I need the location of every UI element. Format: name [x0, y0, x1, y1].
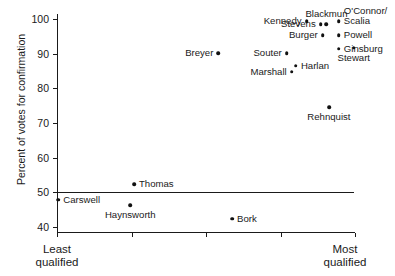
- y-axis-title: Percent of votes for confirmation: [16, 15, 27, 205]
- data-point-breyer: [217, 51, 221, 55]
- majority-threshold-line: [57, 192, 354, 193]
- point-label-bork: Bork: [237, 214, 257, 224]
- point-label-breyer: Breyer: [185, 48, 213, 58]
- data-point-powell: [337, 34, 341, 38]
- point-label-powell: Powell: [344, 30, 372, 40]
- y-axis-tick-label: 50: [21, 187, 49, 198]
- point-label-burger: Burger: [289, 30, 318, 40]
- data-point-rehnquist: [327, 106, 331, 110]
- x-axis-tick: [281, 233, 282, 237]
- data-point-burger: [321, 34, 325, 38]
- point-label-harlan: Harlan: [301, 61, 329, 71]
- point-label-thomas: Thomas: [139, 179, 174, 189]
- point-label-scalia: Scalia: [344, 16, 370, 26]
- point-label-rehnquist: Rehnquist: [307, 112, 350, 122]
- y-axis-tick-label: 90: [21, 49, 49, 60]
- point-label-stevens: Stevens: [281, 19, 316, 29]
- data-point-souter: [285, 51, 289, 55]
- x-axis-label-most-line2: qualified: [300, 256, 390, 269]
- y-axis-tick-label: 60: [21, 153, 49, 164]
- data-point-bork: [230, 217, 234, 221]
- x-axis-label-most-line1: Most: [300, 243, 390, 256]
- y-axis-tick-label: 40: [21, 222, 49, 233]
- data-point-stevens: [319, 22, 323, 26]
- x-axis-tick: [355, 233, 356, 237]
- y-axis-tick-label: 100: [21, 14, 49, 25]
- x-axis-label-most-qualified: Most qualified: [300, 243, 390, 269]
- data-point-marshall: [290, 70, 294, 74]
- x-axis-label-least-line1: Least: [12, 243, 102, 256]
- y-axis-tick-label: 80: [21, 83, 49, 94]
- point-label-haynsworth: Haynsworth: [105, 210, 156, 220]
- y-axis-tick: [53, 158, 57, 159]
- data-point-thomas: [132, 182, 136, 186]
- point-label-marshall: Marshall: [250, 67, 286, 77]
- point-label-souter: Souter: [253, 48, 281, 58]
- y-axis-tick: [53, 88, 57, 89]
- y-axis-tick-label: 70: [21, 118, 49, 129]
- y-axis-tick: [53, 192, 57, 193]
- x-axis-tick: [132, 233, 133, 237]
- point-label-blackmun: Blackmun: [305, 9, 347, 19]
- data-point-harlan: [294, 64, 298, 68]
- point-label-stewart: Stewart: [337, 53, 370, 63]
- y-axis-tick: [53, 19, 57, 20]
- data-point-haynsworth: [128, 204, 132, 208]
- data-point-carswell: [56, 198, 60, 202]
- y-axis-tick: [53, 227, 57, 228]
- x-axis-tick: [57, 233, 58, 237]
- data-point-stewart: [352, 46, 356, 50]
- data-point-blackmun: [325, 22, 329, 26]
- data-point-ginsburg: [337, 47, 341, 51]
- point-label-carswell: Carswell: [63, 195, 100, 205]
- y-axis-tick: [53, 123, 57, 124]
- data-point-scalia: [337, 19, 341, 23]
- x-axis-label-least-line2: qualified: [12, 256, 102, 269]
- y-axis-tick: [53, 54, 57, 55]
- x-axis-label-least-qualified: Least qualified: [12, 243, 102, 269]
- scatter-plot-figure: Percent of votes for confirmation 405060…: [0, 0, 395, 276]
- x-axis-tick: [206, 233, 207, 237]
